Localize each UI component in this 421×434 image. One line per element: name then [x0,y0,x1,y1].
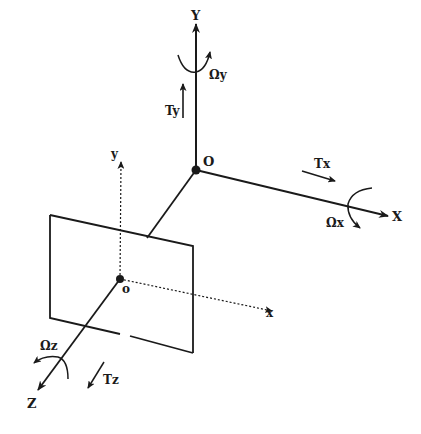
tz-arrow [88,362,104,388]
world-z-label: Z [27,396,37,411]
coordinate-system-diagram: Y Ωy Ty O Tx X Ωx y o x Ωz Tz Z [0,0,421,434]
camera-x-label: x [266,306,274,320]
camera-y-axis [120,162,121,279]
tz-label: Tz [103,373,119,387]
camera-x-axis [120,279,272,311]
world-x-axis [196,170,388,216]
world-origin-label: O [203,154,214,169]
omega-z-rotation-icon [34,357,68,379]
omega-x-label: Ωx [326,216,345,230]
omega-z-label: Ωz [40,339,58,353]
camera-origin-label: o [122,282,130,296]
omega-y-label: Ωy [209,68,228,82]
camera-y-label: y [110,147,119,161]
ty-label: Ty [165,104,181,118]
world-origin-dot [192,166,201,175]
tx-arrow [302,171,335,181]
omega-y-rotation-icon [178,52,210,72]
world-y-label: Y [190,8,201,23]
world-x-label: X [392,209,403,224]
tx-label: Tx [314,157,331,171]
optical-axis-upper [147,170,196,238]
